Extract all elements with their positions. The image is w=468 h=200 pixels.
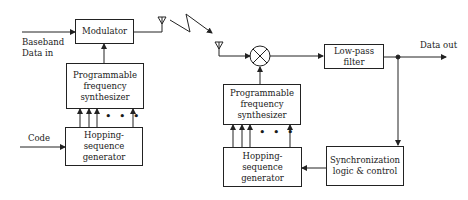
- tx-hopping-generator-block: Hopping-sequence generator: [65, 127, 143, 166]
- baseband-label: Baseband Data in: [22, 37, 64, 59]
- tx-synthesizer-block: Programmable frequency synthesizer: [66, 63, 144, 109]
- rx-synth-line3: synthesizer: [237, 110, 286, 121]
- tx-antenna-icon: [158, 17, 166, 24]
- lowpass-filter-block: Low-pass filter: [324, 44, 384, 69]
- modulator-label: Modulator: [82, 26, 127, 37]
- modulator-block: Modulator: [75, 19, 134, 44]
- rx-synth-line1: Programmable: [230, 88, 294, 99]
- rx-hop-line2: generator: [241, 173, 284, 184]
- tx-synth-line2: frequency: [83, 81, 126, 92]
- baseband-line2: Data in: [22, 48, 64, 59]
- data-out-label: Data out: [420, 40, 457, 51]
- antenna-to-mixer-arrow: [219, 49, 250, 56]
- rx-synth-line2: frequency: [240, 99, 283, 110]
- baseband-line1: Baseband: [22, 37, 64, 48]
- tx-hop-line2: generator: [83, 152, 126, 163]
- sync-logic-block: Synchronization logic & control: [326, 146, 404, 186]
- mod-to-antenna-line: [134, 24, 162, 32]
- tx-ellipsis: • • •: [105, 111, 141, 122]
- sync-line1: Synchronization: [330, 155, 400, 166]
- lowpass-label: Low-pass filter: [325, 46, 383, 68]
- rx-hopping-generator-block: Hopping-sequence generator: [223, 147, 302, 187]
- rx-antenna-icon: [215, 42, 223, 49]
- rx-synthesizer-block: Programmable frequency synthesizer: [223, 84, 301, 125]
- tx-synth-line1: Programmable: [73, 70, 137, 81]
- code-label: Code: [28, 133, 50, 144]
- tx-hop-line1: Hopping-sequence: [66, 130, 142, 152]
- rx-hop-line1: Hopping-sequence: [224, 151, 301, 173]
- sync-line2: logic & control: [333, 166, 397, 177]
- radio-link-icon: [170, 14, 212, 33]
- tx-synth-line3: synthesizer: [80, 92, 129, 103]
- rx-ellipsis: • • •: [259, 127, 295, 138]
